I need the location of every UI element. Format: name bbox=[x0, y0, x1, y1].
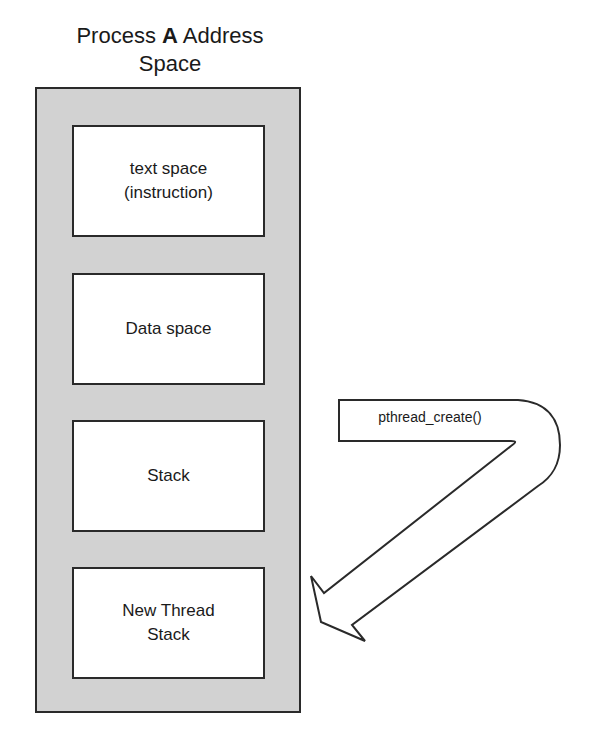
pthread-create-arrow bbox=[0, 0, 592, 745]
arrow-label: pthread_create() bbox=[345, 409, 515, 425]
